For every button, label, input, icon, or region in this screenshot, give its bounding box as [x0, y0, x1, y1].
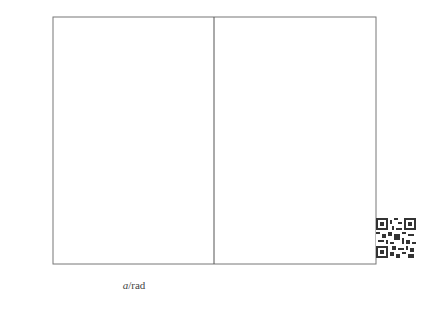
qr-code-icon	[376, 218, 416, 258]
qr-code	[376, 218, 416, 258]
x-axis-label-a: a/rad	[123, 279, 146, 291]
figure-canvas: a/rad	[0, 0, 439, 322]
